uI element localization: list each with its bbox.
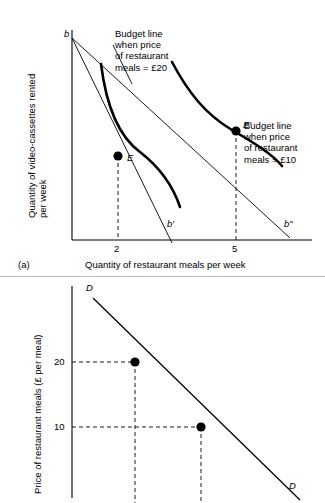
y-tick-10: 10 — [54, 421, 65, 432]
x-tick-5: 5 — [232, 243, 237, 254]
figure-container: b b′ b″ E E′ Budget line when price of r… — [0, 0, 325, 503]
panel-b: D D 20 10 Price of restaurant meals (£ p… — [0, 272, 325, 503]
demand-label-bottom: D — [289, 480, 296, 491]
label-b-double-prime: b″ — [284, 218, 293, 229]
panel-a-y-axis-label: Quantity of video-cassettes rented per w… — [26, 18, 48, 218]
point-price-20 — [130, 357, 139, 366]
panel-a-x-axis-label: Quantity of restaurant meals per week — [85, 259, 246, 270]
point-e — [113, 151, 122, 160]
point-price-10 — [196, 422, 205, 431]
budget-line-20-label: Budget line when price of restaurant mea… — [115, 28, 168, 73]
label-b-prime: b′ — [167, 218, 174, 229]
panel-b-y-axis-label: Price of restaurant meals (£ per meal) — [32, 274, 43, 494]
indifference-curve-1 — [101, 64, 180, 207]
demand-label-top: D — [86, 282, 93, 293]
x-tick-2: 2 — [114, 243, 119, 254]
point-e-prime — [231, 126, 240, 135]
panel-a-tag: (a) — [18, 259, 30, 270]
label-point-e: E — [127, 152, 133, 163]
demand-curve — [93, 298, 300, 500]
panel-b-plot — [0, 272, 325, 503]
y-tick-20: 20 — [54, 356, 65, 367]
label-b: b — [64, 28, 69, 39]
budget-line-10-label: Budget line when price of restaurant mea… — [244, 120, 297, 165]
panel-a: b b′ b″ E E′ Budget line when price of r… — [0, 0, 325, 272]
